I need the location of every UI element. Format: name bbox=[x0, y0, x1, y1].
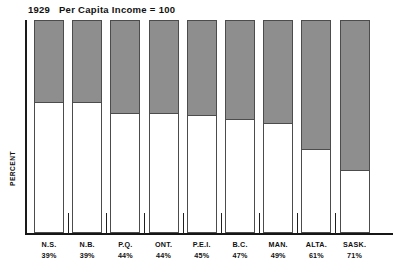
bar-segment-shaded bbox=[341, 21, 369, 171]
bar-segment-open bbox=[264, 124, 292, 232]
bar-segment-open bbox=[150, 114, 178, 232]
bar-segment-open bbox=[302, 150, 330, 232]
chart-title: 1929Per Capita Income = 100 bbox=[28, 4, 175, 15]
bar-segment-shaded bbox=[302, 21, 330, 150]
bar-segment-open bbox=[73, 103, 101, 232]
chart-title-year: 1929 bbox=[28, 4, 50, 15]
plot-area bbox=[26, 20, 367, 233]
chart-container: 1929Per Capita Income = 100 PERCENT N.S.… bbox=[0, 0, 401, 275]
x-axis-tick bbox=[183, 213, 184, 234]
bar-pq bbox=[110, 20, 140, 233]
bar-pei bbox=[187, 20, 217, 233]
bar-segment-open bbox=[111, 114, 139, 232]
x-axis-tick bbox=[221, 213, 222, 234]
bar-segment-shaded bbox=[226, 21, 254, 120]
x-axis-label-sask: SASK.71% bbox=[329, 240, 381, 261]
bar-alta bbox=[301, 20, 331, 233]
bar-segment-open bbox=[188, 116, 216, 232]
x-axis-tick bbox=[106, 213, 107, 234]
bar-segment-open bbox=[35, 103, 63, 232]
bar-segment-shaded bbox=[73, 21, 101, 103]
bar-sask bbox=[340, 20, 370, 233]
x-axis-tick bbox=[68, 213, 69, 234]
chart-title-text: Per Capita Income = 100 bbox=[59, 4, 175, 15]
bar-segment-shaded bbox=[150, 21, 178, 114]
bar-segment-shaded bbox=[264, 21, 292, 124]
bar-nb bbox=[72, 20, 102, 233]
bar-ont bbox=[149, 20, 179, 233]
bar-segment-shaded bbox=[35, 21, 63, 103]
bar-ns bbox=[34, 20, 64, 233]
category-name: SASK. bbox=[329, 240, 381, 251]
y-axis-label: PERCENT bbox=[9, 140, 16, 186]
bar-bc bbox=[225, 20, 255, 233]
x-axis-tick bbox=[144, 213, 145, 234]
x-axis-baseline bbox=[25, 233, 393, 235]
bar-man bbox=[263, 20, 293, 233]
bar-segment-open bbox=[341, 171, 369, 232]
x-axis-tick bbox=[297, 213, 298, 234]
x-axis-tick bbox=[335, 213, 336, 234]
category-value: 71% bbox=[329, 251, 381, 262]
bar-segment-shaded bbox=[111, 21, 139, 114]
bar-segment-open bbox=[226, 120, 254, 232]
bar-segment-shaded bbox=[188, 21, 216, 116]
x-axis-tick bbox=[259, 213, 260, 234]
